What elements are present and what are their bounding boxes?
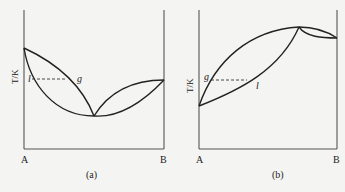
panel-a-label-g: g (77, 73, 82, 84)
panel-b-vapor-curve-left (199, 27, 299, 106)
panel-a-y-axis-label: T/K (10, 69, 20, 84)
panel-b-label-A: A (196, 154, 204, 165)
panel-a-label-l: l (28, 73, 31, 84)
panel-b-y-axis-label: T/K (185, 78, 195, 93)
panel-b-liquid-curve-left (199, 27, 299, 106)
panel-b-label-B: B (333, 154, 340, 165)
panel-a-vapor-curve-right (94, 80, 164, 116)
panel-b-liquid-curve-right (299, 27, 337, 38)
panel-a-label-A: A (21, 154, 29, 165)
panel-a: l g T/K A B (a) (10, 10, 167, 181)
panel-b: g l T/K A B (b) (185, 10, 340, 181)
panel-a-caption: (a) (86, 169, 97, 181)
panel-a-liquid-curve-left (24, 48, 94, 116)
phase-diagrams: l g T/K A B (a) g l T/K A B (b) (0, 0, 345, 192)
panel-b-label-l: l (256, 80, 259, 91)
panel-a-label-B: B (160, 154, 167, 165)
panel-b-label-g: g (204, 71, 209, 82)
panel-b-caption: (b) (272, 169, 284, 181)
